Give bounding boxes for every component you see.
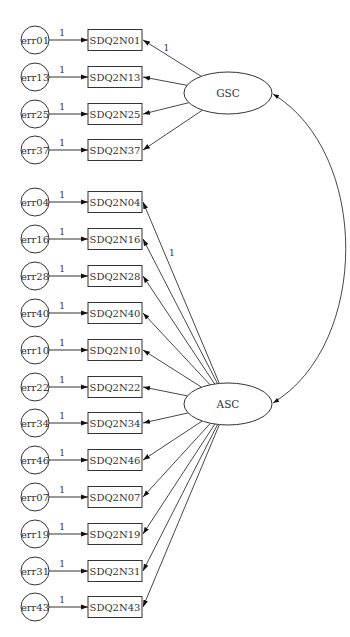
latent-factor-label: GSC: [216, 87, 240, 99]
error-path-label: 1: [59, 28, 65, 38]
error-term-label: err19: [21, 529, 49, 540]
covariance-path: [273, 94, 346, 403]
loading-path: [143, 276, 215, 384]
error-term-label: err04: [21, 197, 49, 208]
error-path-label: 1: [59, 595, 65, 605]
error-path-label: 1: [59, 190, 65, 200]
loading-path: [143, 110, 202, 150]
loading-path: [143, 239, 217, 384]
error-term-label: err07: [21, 492, 49, 503]
observed-variable-label: SDQ2N10: [90, 345, 141, 356]
error-term-label: err10: [21, 345, 49, 356]
loading-path: [143, 77, 187, 85]
error-path-label: 1: [59, 301, 65, 311]
error-path-label: 1: [59, 448, 65, 458]
error-term-label: err22: [21, 382, 49, 393]
loading-path: [143, 40, 201, 76]
error-term-label: err28: [21, 271, 49, 282]
loading-path-label: 1: [164, 43, 170, 53]
observed-variable-label: SDQ2N01: [90, 35, 141, 46]
loading-path: [143, 103, 189, 114]
error-term-label: err43: [21, 602, 49, 613]
error-term-label: err13: [21, 72, 49, 83]
error-term-label: err37: [21, 145, 49, 156]
loading-path: [143, 413, 188, 423]
observed-variable-label: SDQ2N34: [90, 418, 141, 429]
loading-path: [143, 350, 202, 387]
observed-variable-label: SDQ2N31: [90, 566, 141, 577]
error-term-label: err34: [21, 418, 49, 429]
error-path-label: 1: [59, 411, 65, 421]
error-term-label: err40: [21, 308, 49, 319]
observed-variable-label: SDQ2N07: [90, 492, 141, 503]
loading-path: [143, 423, 210, 497]
loading-path: [143, 424, 218, 571]
observed-variable-label: SDQ2N19: [90, 529, 141, 540]
error-term-label: err25: [21, 109, 49, 120]
observed-variable-label: SDQ2N40: [90, 308, 141, 319]
error-path-label: 1: [59, 375, 65, 385]
error-path-label: 1: [59, 138, 65, 148]
error-path-label: 1: [59, 338, 65, 348]
observed-variable-label: SDQ2N16: [90, 234, 141, 245]
loading-path: [143, 421, 202, 460]
error-path-label: 1: [59, 485, 65, 495]
observed-variable-label: SDQ2N28: [90, 271, 141, 282]
observed-variable-label: SDQ2N25: [90, 109, 141, 120]
error-path-label: 1: [59, 227, 65, 237]
loading-path: [143, 387, 187, 396]
observed-variable-label: SDQ2N37: [90, 145, 141, 156]
latent-factor-label: ASC: [216, 398, 240, 410]
error-term-label: err01: [21, 35, 49, 46]
error-path-label: 1: [59, 522, 65, 532]
error-path-label: 1: [59, 102, 65, 112]
error-path-label: 1: [59, 65, 65, 75]
latent-factor-gsc: GSC: [184, 72, 272, 114]
observed-variable-label: SDQ2N46: [90, 455, 141, 466]
observed-variable-label: SDQ2N04: [90, 197, 141, 208]
loading-path: [143, 424, 215, 534]
latent-factor-asc: ASC: [184, 383, 272, 425]
error-term-label: err31: [21, 566, 49, 577]
loading-path-label: 1: [169, 248, 175, 258]
observed-variable-label: SDQ2N13: [90, 72, 141, 83]
error-term-label: err46: [21, 455, 49, 466]
observed-variable-label: SDQ2N43: [90, 602, 141, 613]
sem-diagram: 111111111111111111 err01SDQ2N01err13SDQ2…: [0, 0, 350, 637]
error-term-label: err16: [21, 234, 49, 245]
error-path-label: 1: [59, 264, 65, 274]
error-path-label: 1: [59, 559, 65, 569]
observed-variable-label: SDQ2N22: [90, 382, 141, 393]
